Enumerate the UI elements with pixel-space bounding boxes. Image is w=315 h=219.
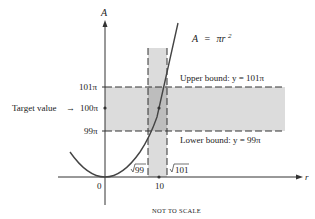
upper-bound-label: Upper bound: y = 101π	[180, 73, 265, 83]
x-axis-label: r	[305, 172, 309, 182]
x-tick-10	[157, 175, 160, 178]
sqrt101-label: 101	[170, 164, 189, 175]
y-axis-arrow-icon	[103, 20, 108, 27]
svg-text:99: 99	[135, 165, 145, 175]
x-axis-arrow-icon	[296, 175, 303, 180]
svg-text:101: 101	[175, 165, 189, 175]
y-tick-label-100pi: 100π	[80, 103, 99, 113]
y-tick-label-101pi: 101π	[79, 82, 98, 92]
curve-label: A = πr 2	[191, 32, 232, 44]
footnote: NOT TO SCALE	[152, 207, 201, 214]
x-tick-label-0: 0	[97, 181, 102, 191]
y-axis-label: A	[100, 7, 108, 18]
point-10-100pi	[157, 106, 160, 109]
target-value-point	[103, 106, 106, 109]
sqrt99-label: 99	[131, 164, 146, 175]
x-tick-label-10: 10	[155, 181, 165, 191]
lower-bound-label: Lower bound: y = 99π	[180, 135, 261, 145]
horizontal-tolerance-band	[105, 87, 285, 131]
diagram-canvas: A r A = πr 2 101π Target value → 100π 99…	[0, 0, 315, 219]
band-overlap	[148, 87, 167, 131]
target-value-label: Target value	[12, 103, 56, 113]
target-arrow-icon: →	[66, 103, 75, 113]
y-tick-label-99pi: 99π	[84, 126, 98, 136]
